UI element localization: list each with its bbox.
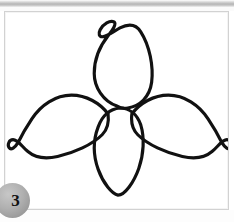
figure-panel: [4, 11, 229, 210]
page-bottom-strip: [0, 210, 234, 222]
screenshot-root: 3: [0, 0, 234, 222]
scanner-gradient-band: [0, 0, 234, 7]
illustration-area: [5, 12, 228, 209]
top-petal-path: [94, 21, 152, 108]
right-petal-path: [132, 95, 228, 158]
center-petal-path: [94, 108, 143, 195]
flower-line-drawing: [5, 12, 228, 209]
figure-number-label: 3: [5, 192, 20, 210]
